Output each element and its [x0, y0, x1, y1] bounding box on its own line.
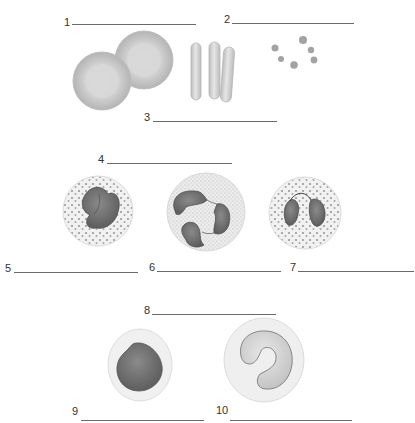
answer-line-9[interactable]	[81, 420, 204, 421]
label-number-8: 8	[144, 304, 150, 316]
granulocyte-cell-6-icon	[167, 173, 245, 251]
answer-line-7[interactable]	[298, 271, 414, 272]
agranulocyte-cell-9-icon	[108, 329, 172, 401]
red-blood-cell-face-icon	[73, 31, 173, 110]
label-number-6: 6	[149, 261, 155, 273]
label-number-3: 3	[144, 111, 150, 123]
label-number-7: 7	[290, 261, 296, 273]
answer-line-3[interactable]	[153, 121, 277, 122]
answer-line-8[interactable]	[152, 314, 276, 315]
platelets-icon	[272, 36, 318, 69]
red-blood-cell-side-icon	[191, 42, 235, 102]
agranulocyte-cell-10-icon	[224, 318, 304, 402]
answer-line-4[interactable]	[107, 163, 232, 164]
label-number-10: 10	[216, 404, 228, 416]
blood-cells-illustration	[0, 0, 415, 423]
granulocyte-cell-7-icon	[269, 177, 341, 249]
answer-line-5[interactable]	[14, 272, 138, 273]
answer-line-1[interactable]	[72, 24, 196, 25]
granulocyte-cell-5-icon	[63, 176, 133, 246]
label-number-4: 4	[98, 153, 104, 165]
label-number-5: 5	[5, 262, 11, 274]
label-number-2: 2	[224, 13, 230, 25]
label-number-9: 9	[72, 405, 78, 417]
answer-line-2[interactable]	[232, 23, 354, 24]
answer-line-6[interactable]	[157, 271, 281, 272]
answer-line-10[interactable]	[230, 420, 352, 421]
label-number-1: 1	[64, 16, 70, 28]
